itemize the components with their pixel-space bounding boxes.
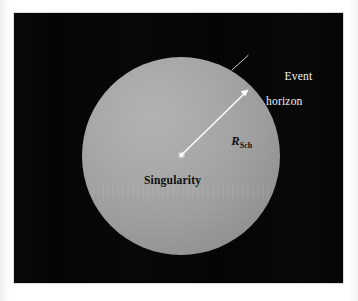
- singularity-point: [178, 152, 185, 159]
- figure-root: Event horizon Singularity RSch: [0, 0, 358, 301]
- radius-symbol: R: [231, 134, 240, 148]
- singularity-label: Singularity: [144, 174, 201, 186]
- event-horizon-label-line1: Event: [284, 70, 312, 82]
- event-horizon-label: Event horizon: [266, 58, 312, 132]
- annotation-overlay: [14, 13, 343, 283]
- figure-plate: Event horizon Singularity RSch: [14, 13, 343, 283]
- event-horizon-leader-line: [232, 56, 248, 71]
- event-horizon-label-line2: horizon: [266, 95, 312, 107]
- schwarzschild-radius-label: RSch: [212, 122, 252, 164]
- radius-subscript: Sch: [240, 141, 252, 150]
- singularity-dot: [180, 153, 184, 157]
